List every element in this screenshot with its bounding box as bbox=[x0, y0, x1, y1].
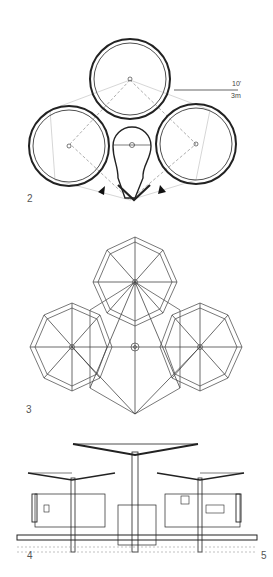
scale-metric: 3m bbox=[231, 92, 241, 100]
figure-number-5: 5 bbox=[261, 550, 267, 561]
scale-imperial: 10' bbox=[232, 80, 241, 88]
floor-plan bbox=[29, 39, 238, 200]
section-elevation bbox=[17, 444, 257, 552]
roof-framing-plan bbox=[30, 237, 242, 414]
figure-number-4: 4 bbox=[27, 550, 33, 561]
figure-number-3: 3 bbox=[26, 404, 32, 415]
figure-number-2: 2 bbox=[27, 193, 33, 204]
